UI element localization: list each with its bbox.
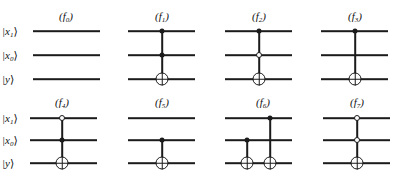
circuit-panel-f1: (f1) [112,8,212,95]
wire-x1 [225,117,292,119]
open-control-x0 [354,137,360,143]
wire-label-y: |y⟩ [2,74,14,85]
filled-control-x1 [268,116,273,121]
panel-title-f7: (f7) [350,97,364,108]
circuit-panel-f5: (f5) [112,95,212,182]
panel-title-f6: (f6) [256,97,270,108]
wire-x1 [128,117,195,119]
wire-x0 [225,139,292,141]
filled-control-x0 [160,138,165,143]
filled-control-x1 [257,29,262,34]
circuit-panel-f4: (f4) |x1⟩ |x0⟩ |y⟩ [0,95,100,182]
circuit-panel-f7: (f7) [302,95,402,182]
wire-y [33,78,100,80]
xor-target-y [253,73,266,86]
filled-control-x1 [160,29,165,34]
panel-title-f2: (f2) [252,11,266,22]
circuit-panel-f6: (f6) [207,95,307,182]
open-control-x0 [256,52,262,58]
filled-control-x1 [353,29,358,34]
wire-label-x1: |x1⟩ [2,26,18,37]
xor-target-y [156,73,169,86]
xor-target-y [56,157,69,170]
panel-title-f5: (f5) [155,97,169,108]
panel-title-f0: (f0) [59,11,73,22]
circuit-panel-f0: (f0) |x1⟩ |x0⟩ |y⟩ [0,8,100,95]
wire-x0 [33,54,100,56]
panel-title-f3: (f3) [348,11,362,22]
wire-label-x1: |x1⟩ [2,113,18,124]
wire-label-y: |y⟩ [2,158,14,169]
filled-control-x0 [60,138,65,143]
panel-title-f4: (f4) [55,97,69,108]
filled-control-x0 [160,53,165,58]
xor-target-y [351,157,364,170]
panel-title-f1: (f1) [155,11,169,22]
circuit-figure: (f0) |x1⟩ |x0⟩ |y⟩ (f1) (f2) [0,0,407,182]
wire-label-x0: |x0⟩ [2,135,18,146]
open-control-x1 [354,115,360,121]
circuit-panel-f2: (f2) [207,8,307,95]
wire-label-x0: |x0⟩ [2,50,18,61]
wire-y [225,162,292,164]
filled-control-x0 [245,138,250,143]
wire-x1 [33,30,100,32]
xor-target-y [156,157,169,170]
xor-target-y-right [264,157,277,170]
open-control-x1 [59,115,65,121]
xor-target-y [349,73,362,86]
circuit-panel-f3: (f3) [302,8,402,95]
xor-target-y-left [241,157,254,170]
